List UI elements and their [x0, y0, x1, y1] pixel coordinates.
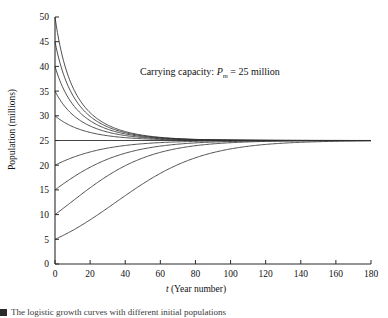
annotation-equals: = 25 million [228, 66, 280, 77]
carrying-capacity-annotation: Carrying capacity: Pm = 25 million [140, 66, 280, 80]
x-tick-label: 0 [53, 269, 58, 279]
x-tick-label: 20 [85, 269, 95, 279]
y-tick-label: 5 [44, 235, 49, 245]
logistic-growth-figure: 020406080100120140160180 051015202530354… [0, 0, 388, 318]
plot-curves [55, 17, 371, 239]
y-tick-label: 10 [40, 210, 50, 220]
x-tick-label: 80 [191, 269, 201, 279]
logistic-curve [55, 141, 371, 190]
logistic-curve [55, 141, 371, 239]
annotation-symbol: P [216, 66, 223, 77]
figure-caption: The logistic growth curves with differen… [0, 306, 388, 318]
y-axis: 05101520253035404550 [40, 12, 60, 269]
logistic-curve [55, 141, 371, 215]
x-axis-title: t (Year number) [166, 284, 226, 295]
y-axis-title: Population (millions) [7, 89, 18, 170]
logistic-curve [55, 42, 371, 141]
logistic-curve [55, 91, 371, 140]
caption-marker-icon [0, 309, 7, 316]
logistic-curve [55, 116, 371, 141]
y-tick-label: 50 [40, 12, 50, 22]
annotation-text: Carrying capacity: Pm = 25 million [140, 66, 280, 80]
y-tick-label: 45 [40, 37, 50, 47]
x-tick-label: 160 [329, 269, 344, 279]
x-tick-label: 120 [259, 269, 274, 279]
y-tick-label: 0 [44, 259, 49, 269]
y-tick-label: 35 [40, 87, 50, 97]
x-tick-label: 140 [294, 269, 309, 279]
x-tick-label: 100 [223, 269, 238, 279]
x-axis-title-rest: (Year number) [169, 284, 227, 295]
y-tick-label: 40 [40, 62, 50, 72]
logistic-curve [55, 17, 371, 140]
x-tick-label: 180 [364, 269, 379, 279]
y-tick-label: 15 [40, 185, 50, 195]
x-tick-label: 40 [120, 269, 130, 279]
y-axis-title-text: Population (millions) [7, 89, 18, 170]
y-tick-label: 30 [40, 111, 50, 121]
y-tick-label: 20 [40, 161, 50, 171]
x-tick-label: 60 [156, 269, 166, 279]
logistic-curve [55, 66, 371, 140]
population-growth-chart: 020406080100120140160180 051015202530354… [0, 0, 388, 300]
caption-text: The logistic growth curves with differen… [11, 307, 226, 317]
x-axis: 020406080100120140160180 [53, 260, 379, 279]
y-tick-label: 25 [40, 136, 50, 146]
annotation-prefix: Carrying capacity: [140, 66, 217, 77]
x-axis-title-text: t (Year number) [166, 284, 226, 295]
